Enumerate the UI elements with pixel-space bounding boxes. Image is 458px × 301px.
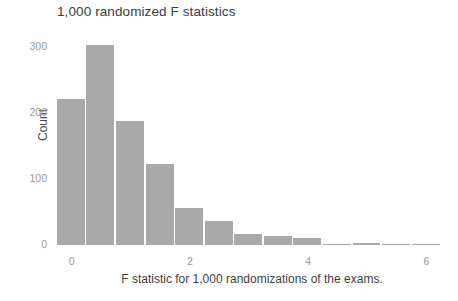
histogram-figure: 1,000 randomized F statistics Count 0100… bbox=[0, 0, 458, 301]
x-tick-label: 6 bbox=[406, 255, 446, 267]
x-axis-tick-labels: 0246 bbox=[0, 0, 458, 301]
x-tick-label: 4 bbox=[288, 255, 328, 267]
x-axis-title: F statistic for 1,000 randomizations of … bbox=[51, 272, 453, 286]
x-tick-label: 2 bbox=[170, 255, 210, 267]
x-tick-label: 0 bbox=[52, 255, 92, 267]
